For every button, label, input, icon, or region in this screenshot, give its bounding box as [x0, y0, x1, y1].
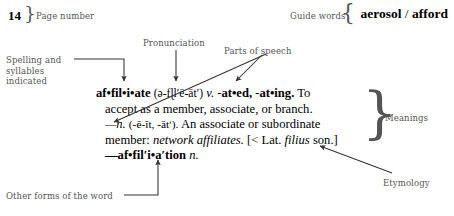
pronunciation-annotation-label: Pronunciation	[143, 38, 205, 49]
leader-parts-of-speech-verb	[236, 55, 262, 81]
entry-line-headword: af•fil•i•ate (ə-fɭlʹē-ātʹ) v. -at•ed, -a…	[96, 86, 348, 102]
page-number-brace: }	[24, 4, 36, 23]
entry-definition-verb-part1: To	[297, 86, 310, 100]
entry-etymology-root: filius	[285, 133, 310, 147]
spelling-syllables-line-1: Spelling and	[6, 55, 61, 65]
entry-definition-noun-part2: member:	[105, 133, 150, 147]
guide-word-last: afford	[412, 6, 448, 21]
entry-line-definition-verb: accept as a member, associate, or branch…	[96, 102, 348, 118]
entry-headword: af•fil•i•ate	[96, 86, 151, 100]
entry-derived-form: —af•filʹi•aʹtion	[105, 148, 186, 162]
entry-pronunciation: (ə-fɭlʹē-ātʹ)	[154, 87, 203, 100]
leader-other-forms	[124, 160, 158, 195]
entry-example: network affiliates.	[153, 133, 244, 147]
entry-definition-verb-part2: accept as a member, associate, or branch…	[105, 102, 313, 116]
entry-etymology-gloss: son.]	[313, 133, 338, 147]
entry-etymology-open: [< Lat.	[247, 133, 281, 147]
entry-part-of-speech-noun: —n.	[105, 117, 126, 131]
spelling-syllables-annotation-label: Spelling and syllables indicated	[6, 55, 78, 87]
entry-definition-noun-part1: An associate or subordinate	[181, 117, 321, 131]
dictionary-entry: af•fil•i•ate (ə-fɭlʹē-ātʹ) v. -at•ed, -a…	[96, 86, 348, 164]
spelling-syllables-line-3: indicated	[6, 76, 47, 86]
other-forms-annotation-label: Other forms of the word	[6, 191, 113, 202]
guide-words: aerosol / afford	[360, 6, 448, 22]
guide-words-brace: {	[341, 2, 355, 24]
guide-words-annotation-label: Guide words	[290, 11, 346, 22]
leader-spelling-syllables	[74, 59, 124, 81]
entry-etymology-gloss-wrap: son.]	[310, 133, 338, 147]
page-number-annotation-label: Page number	[36, 11, 94, 22]
entry-line-example-etymology: member: network affiliates. [< Lat. fili…	[96, 133, 348, 149]
guide-word-first: aerosol	[360, 6, 401, 21]
etymology-annotation-label: Etymology	[383, 178, 430, 189]
entry-part-of-speech-verb: v.	[206, 86, 214, 100]
entry-noun-pronunciation: (-ē-ĭt, -ātʹ).	[129, 118, 179, 130]
entry-line-derived-form: —af•filʹi•aʹtion n.	[96, 148, 348, 164]
page-number: 14	[8, 8, 21, 24]
entry-line-noun: —n. (-ē-ĭt, -ātʹ). An associate or subor…	[96, 117, 348, 133]
spelling-syllables-line-2: syllables	[6, 66, 44, 76]
entry-derived-form-pos: n.	[189, 148, 198, 162]
parts-of-speech-annotation-label: Parts of speech	[224, 46, 292, 57]
meanings-brace: }	[362, 85, 398, 141]
entry-inflections: -at•ed, -at•ing.	[217, 86, 294, 100]
guide-word-separator: /	[405, 6, 409, 21]
